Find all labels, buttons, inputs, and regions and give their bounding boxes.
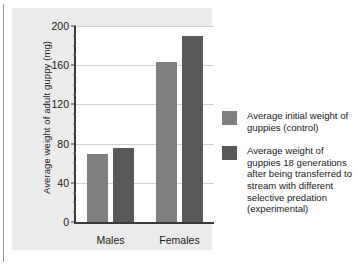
y-tick-mark [71, 222, 76, 223]
y-minor-tick-mark [73, 75, 76, 76]
legend-swatch [222, 111, 237, 125]
legend-label: Average initial weight of guppies (contr… [247, 110, 354, 133]
y-minor-tick-mark [73, 45, 76, 46]
y-minor-tick-mark [73, 114, 76, 115]
legend-swatch [222, 146, 237, 160]
x-tick-label: Females [159, 234, 199, 246]
y-minor-tick-mark [73, 153, 76, 154]
y-minor-tick-mark [73, 84, 76, 85]
gridline [76, 26, 214, 27]
bar [156, 62, 177, 222]
y-tick-label: 80 [57, 138, 69, 150]
chart-legend: Average initial weight of guppies (contr… [222, 110, 354, 227]
legend-label: Average weight of guppies 18 generations… [247, 145, 354, 215]
y-tick-mark [71, 182, 76, 183]
y-tick-mark [71, 65, 76, 66]
y-tick-mark [71, 143, 76, 144]
y-axis-title: Average weight of adult guppy (mg) [41, 6, 52, 230]
y-minor-tick-mark [73, 212, 76, 213]
y-minor-tick-mark [73, 35, 76, 36]
y-minor-tick-mark [73, 94, 76, 95]
bar [182, 36, 203, 222]
y-minor-tick-mark [73, 202, 76, 203]
y-minor-tick-mark [73, 133, 76, 134]
y-tick-mark [71, 26, 76, 27]
y-minor-tick-mark [73, 163, 76, 164]
bar [87, 154, 108, 222]
bar [113, 148, 134, 222]
legend-entry: Average initial weight of guppies (contr… [222, 110, 354, 133]
plot-area: 04080120160200 MalesFemales [74, 26, 214, 224]
x-tick-label: Males [96, 234, 124, 246]
y-tick-mark [71, 104, 76, 105]
chart-panel: Average weight of adult guppy (mg) 04080… [12, 8, 212, 250]
legend-entry: Average weight of guppies 18 generations… [222, 145, 354, 215]
y-minor-tick-mark [73, 192, 76, 193]
y-tick-label: 160 [51, 59, 69, 71]
y-minor-tick-mark [73, 55, 76, 56]
y-tick-label: 40 [57, 177, 69, 189]
y-minor-tick-mark [73, 173, 76, 174]
figure-left-rule [3, 4, 4, 262]
y-tick-label: 120 [51, 98, 69, 110]
figure-container: Average weight of adult guppy (mg) 04080… [0, 0, 356, 269]
y-tick-label: 0 [63, 216, 69, 228]
y-tick-label: 200 [51, 20, 69, 32]
y-minor-tick-mark [73, 124, 76, 125]
